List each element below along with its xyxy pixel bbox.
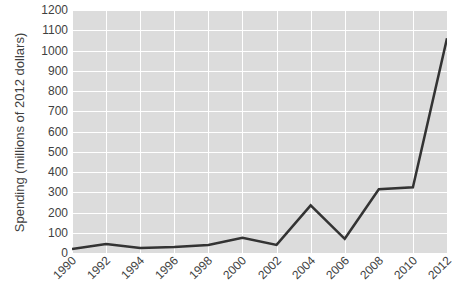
x-axis-tick-label: 2010 bbox=[392, 254, 419, 281]
y-axis-tick-label: 1100 bbox=[26, 24, 68, 36]
series-spending-line bbox=[72, 10, 447, 253]
x-axis-tick-label: 1992 bbox=[85, 254, 112, 281]
x-axis-tick-label: 1998 bbox=[187, 254, 214, 281]
y-axis-tick-label: 700 bbox=[26, 105, 68, 117]
y-axis-title: Spending (millions of 2012 dollars) bbox=[12, 8, 27, 258]
plot-area bbox=[72, 10, 447, 253]
line-chart: Spending (millions of 2012 dollars) 0100… bbox=[0, 0, 462, 298]
x-axis-tick-label: 1996 bbox=[153, 254, 180, 281]
x-axis-tick-label: 2008 bbox=[358, 254, 385, 281]
x-axis-tick-label: 1994 bbox=[119, 254, 146, 281]
y-axis-tick-label: 100 bbox=[26, 227, 68, 239]
y-axis-tick-label: 300 bbox=[26, 186, 68, 198]
x-axis-tick-label: 2000 bbox=[221, 254, 248, 281]
y-axis-tick-label: 500 bbox=[26, 146, 68, 158]
y-axis-tick-label: 200 bbox=[26, 207, 68, 219]
y-axis-tick-label: 600 bbox=[26, 126, 68, 138]
y-axis-tick-label: 400 bbox=[26, 166, 68, 178]
y-axis-tick-label: 1000 bbox=[26, 45, 68, 57]
x-axis-tick-label: 2004 bbox=[290, 254, 317, 281]
y-axis-tick-label: 1200 bbox=[26, 4, 68, 16]
x-axis-tick-label: 1990 bbox=[51, 254, 78, 281]
x-axis-tick-label: 2006 bbox=[324, 254, 351, 281]
x-axis-tick-label: 2002 bbox=[256, 254, 283, 281]
y-axis-tick-label: 900 bbox=[26, 65, 68, 77]
x-axis-tick-label: 2012 bbox=[426, 254, 453, 281]
y-axis-tick-label: 800 bbox=[26, 85, 68, 97]
x-axis-tick-labels: 1990199219941996199820002002200420062008… bbox=[0, 253, 462, 298]
